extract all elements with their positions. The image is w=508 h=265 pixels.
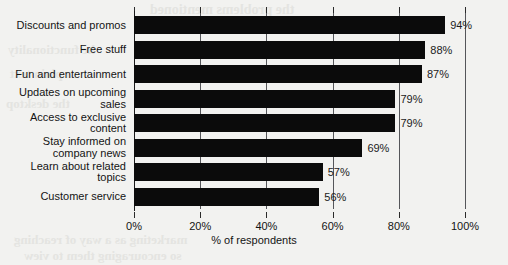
x-tick-label-60%: 60%: [322, 220, 344, 232]
bar: [134, 188, 319, 206]
chart-x-axis-tick-labels: 0%20%40%60%80%100%: [0, 216, 508, 232]
bar: [134, 114, 395, 132]
bar-value-label: 88%: [425, 41, 452, 59]
bottom-tick-0%: [134, 212, 135, 218]
bar-row: 88%: [134, 38, 465, 63]
bar-row: 57%: [134, 160, 465, 185]
category-label-line: Free stuff: [0, 44, 126, 56]
bar-value-label: 69%: [362, 139, 389, 157]
bottom-tick-40%: [266, 212, 267, 218]
chart-plot-area: 94%88%87%79%79%69%57%56%: [134, 13, 465, 209]
bar-chart-figure: 94%88%87%79%79%69%57%56% Discounts and p…: [0, 0, 508, 265]
bar: [134, 163, 323, 181]
category-label-line: sales: [0, 99, 126, 111]
category-label: Stay informed oncompany news: [0, 136, 126, 159]
bar: [134, 41, 425, 59]
category-label-line: company news: [0, 148, 126, 160]
top-tick-100%: [465, 7, 466, 13]
bar-row: 94%: [134, 13, 465, 38]
category-label-line: Customer service: [0, 191, 126, 203]
category-label: Updates on upcomingsales: [0, 87, 126, 110]
top-tick-80%: [399, 7, 400, 13]
category-label-line: Discounts and promos: [0, 20, 126, 32]
bar-value-label: 79%: [395, 114, 422, 132]
bar-row: 79%: [134, 111, 465, 136]
top-tick-40%: [266, 7, 267, 13]
bottom-tick-60%: [333, 212, 334, 218]
bottom-tick-100%: [465, 212, 466, 218]
category-label-line: Fun and entertainment: [0, 69, 126, 81]
bar: [134, 139, 362, 157]
x-tick-label-100%: 100%: [451, 220, 479, 232]
category-label: Access to exclusivecontent: [0, 112, 126, 135]
bar-row: 56%: [134, 185, 465, 210]
bar: [134, 16, 445, 34]
bar: [134, 65, 422, 83]
chart-x-axis-title: % of respondents: [0, 234, 508, 246]
bar-row: 79%: [134, 87, 465, 112]
bar-value-label: 56%: [319, 188, 346, 206]
bar-value-label: 79%: [395, 90, 422, 108]
category-label: Learn about relatedtopics: [0, 161, 126, 184]
category-label: Discounts and promos: [0, 20, 126, 32]
bar-value-label: 94%: [445, 16, 472, 34]
category-label-line: topics: [0, 172, 126, 184]
category-label: Free stuff: [0, 44, 126, 56]
category-label: Customer service: [0, 191, 126, 203]
bar-row: 69%: [134, 136, 465, 161]
category-label-line: content: [0, 123, 126, 135]
top-tick-60%: [333, 7, 334, 13]
top-tick-20%: [200, 7, 201, 13]
bar-value-label: 57%: [323, 163, 350, 181]
x-tick-label-0%: 0%: [126, 220, 142, 232]
x-tick-label-20%: 20%: [189, 220, 211, 232]
category-label: Fun and entertainment: [0, 69, 126, 81]
bottom-tick-80%: [399, 212, 400, 218]
bar-value-label: 87%: [422, 65, 449, 83]
x-tick-label-40%: 40%: [255, 220, 277, 232]
bottom-tick-20%: [200, 212, 201, 218]
gridline-100%: [465, 13, 466, 209]
bar: [134, 90, 395, 108]
x-tick-label-80%: 80%: [388, 220, 410, 232]
bar-row: 87%: [134, 62, 465, 87]
